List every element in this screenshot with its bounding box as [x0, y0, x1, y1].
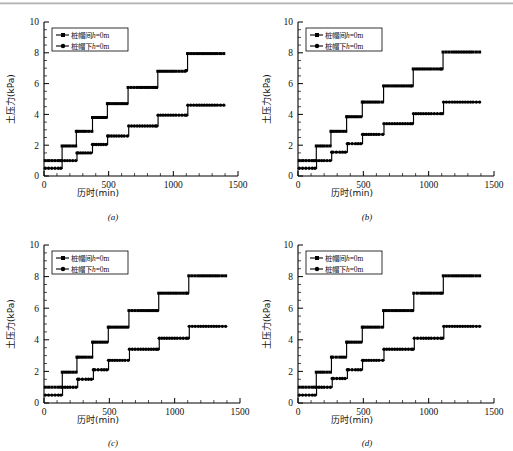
- x-tick-label: 1500: [229, 180, 248, 190]
- y-tick-label: 6: [34, 79, 39, 89]
- figure-panel-grid: 0500100015000246810历时(min)土压力(kPa)(a)桩帽间…: [0, 0, 513, 451]
- y-tick-label: 10: [30, 240, 40, 250]
- y-tick-label: 4: [34, 335, 39, 345]
- panel-label: (b): [362, 212, 373, 222]
- series-between-caps: [44, 274, 227, 388]
- y-tick-label: 2: [34, 141, 39, 151]
- x-axis-title: 历时(min): [77, 414, 119, 425]
- y-tick-label: 8: [288, 48, 293, 58]
- y-tick-label: 6: [34, 304, 39, 314]
- y-axis-title: 土压力(kPa): [261, 74, 272, 124]
- legend: 桩帽间h=0m桩帽下h=0m: [52, 251, 128, 274]
- x-axis-title: 历时(min): [331, 187, 373, 198]
- x-axis-title: 历时(min): [77, 187, 119, 198]
- y-axis-title: 土压力(kPa): [5, 74, 16, 124]
- legend-label-between-caps: 桩帽间h=0m: [325, 31, 364, 40]
- legend-label-below-cap: 桩帽下h=0m: [325, 42, 364, 51]
- legend-label-between-caps: 桩帽间h=0m: [325, 254, 364, 263]
- y-tick-label: 4: [288, 335, 293, 345]
- x-tick-label: 1500: [231, 407, 250, 417]
- y-tick-label: 10: [284, 17, 294, 27]
- y-tick-label: 10: [284, 240, 294, 250]
- series-below-cap: [44, 325, 228, 397]
- y-tick-label: 0: [34, 171, 39, 181]
- y-tick-label: 8: [34, 272, 39, 282]
- y-tick-label: 0: [288, 398, 293, 408]
- series-below-cap: [298, 100, 482, 170]
- y-tick-label: 8: [34, 48, 39, 58]
- y-tick-label: 4: [34, 110, 39, 120]
- y-tick-label: 6: [288, 304, 293, 314]
- panel-label: (c): [108, 438, 118, 448]
- legend: 桩帽间h=0m桩帽下h=0m: [52, 28, 128, 51]
- x-tick-label: 0: [296, 407, 301, 417]
- y-axis-title: 土压力(kPa): [261, 299, 272, 349]
- y-tick-label: 10: [30, 17, 40, 27]
- panel-label: (d): [362, 438, 373, 448]
- y-tick-label: 8: [288, 272, 293, 282]
- y-tick-label: 2: [288, 141, 293, 151]
- legend: 桩帽间h=0m桩帽下h=0m: [306, 28, 382, 51]
- x-axis-title: 历时(min): [331, 414, 373, 425]
- y-tick-label: 4: [288, 110, 293, 120]
- x-tick-label: 1000: [419, 180, 438, 190]
- x-tick-label: 1500: [485, 180, 504, 190]
- series-below-cap: [44, 103, 226, 170]
- legend: 桩帽间h=0m桩帽下h=0m: [306, 251, 382, 274]
- legend-label-between-caps: 桩帽间h=0m: [71, 254, 110, 263]
- y-tick-label: 2: [288, 367, 293, 377]
- chart-panel-b: 0500100015000246810历时(min)土压力(kPa)(b)桩帽间…: [256, 0, 513, 225]
- y-axis-title: 土压力(kPa): [5, 299, 16, 349]
- series-below-cap: [298, 325, 482, 397]
- legend-label-below-cap: 桩帽下h=0m: [71, 42, 110, 51]
- x-tick-label: 0: [42, 407, 47, 417]
- chart-panel-d: 0500100015000246810历时(min)土压力(kPa)(d)桩帽间…: [256, 225, 513, 451]
- legend-label-below-cap: 桩帽下h=0m: [71, 265, 110, 274]
- x-tick-label: 0: [296, 180, 301, 190]
- x-tick-label: 1500: [485, 407, 504, 417]
- x-tick-label: 0: [42, 180, 47, 190]
- y-tick-label: 0: [34, 398, 39, 408]
- panel-label: (a): [108, 212, 119, 222]
- x-tick-label: 1000: [419, 407, 438, 417]
- chart-panel-c: 0500100015000246810历时(min)土压力(kPa)(c)桩帽间…: [0, 225, 256, 451]
- series-between-caps: [298, 51, 481, 163]
- y-tick-label: 6: [288, 79, 293, 89]
- legend-label-between-caps: 桩帽间h=0m: [71, 31, 110, 40]
- series-between-caps: [298, 274, 481, 388]
- y-tick-label: 2: [34, 367, 39, 377]
- legend-label-below-cap: 桩帽下h=0m: [325, 265, 364, 274]
- x-tick-label: 1000: [165, 407, 184, 417]
- series-between-caps: [44, 52, 225, 162]
- chart-panel-a: 0500100015000246810历时(min)土压力(kPa)(a)桩帽间…: [0, 0, 256, 225]
- y-tick-label: 0: [288, 171, 293, 181]
- x-tick-label: 1000: [164, 180, 183, 190]
